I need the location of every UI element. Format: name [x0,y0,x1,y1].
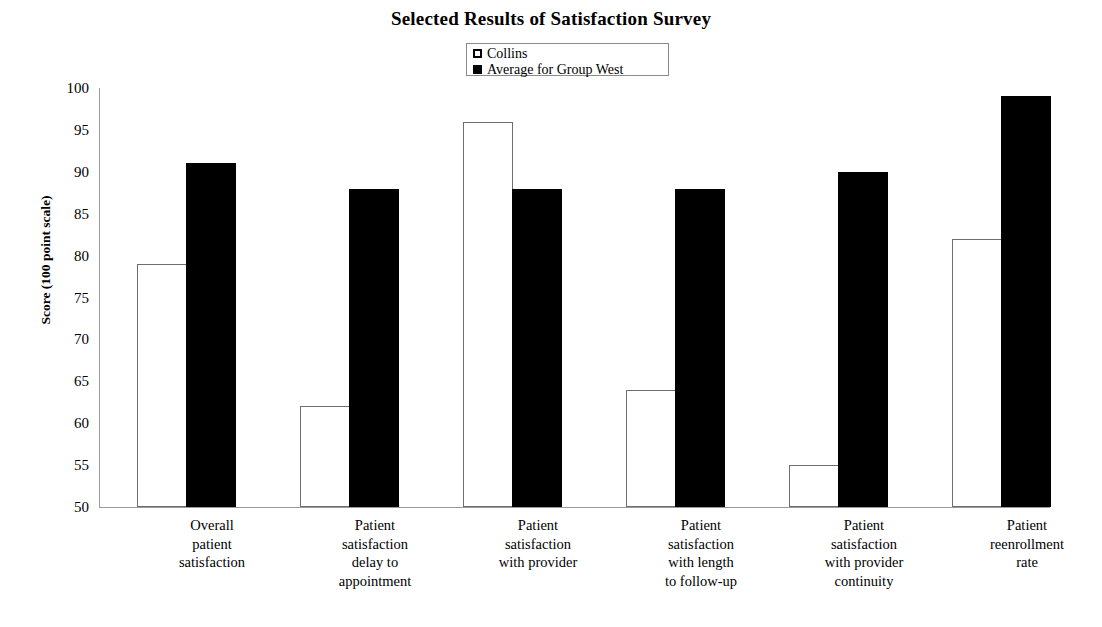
y-axis-title: Score (100 point scale) [38,160,54,360]
y-tick-label: 50 [74,499,89,516]
category-label-line: with length [616,553,786,572]
category-label-line: to follow-up [616,572,786,591]
y-tick-label: 85 [74,205,89,222]
legend-label-collins: Collins [487,46,527,61]
category-label-line: Patient [290,516,460,535]
category-label-line: satisfaction [127,553,297,572]
category-label-line: Patient [453,516,623,535]
category-label-line: Overall [127,516,297,535]
bar-group-west [1001,96,1051,507]
y-tick-label: 90 [74,163,89,180]
category-label-line: Patient [779,516,949,535]
y-axis-line [99,88,100,508]
category-label-line: Patient [942,516,1102,535]
bar-group [789,88,889,507]
category-label: Patientsatisfactionwith providercontinui… [779,516,949,590]
legend-item-collins: Collins [473,46,668,61]
category-label-line: continuity [779,572,949,591]
bar-collins [952,239,1002,507]
y-tick-label: 75 [74,289,89,306]
bar-collins [463,122,513,507]
bar-group-west [675,189,725,507]
plot-area: 10095908580757065605550 Overallpatientsa… [99,88,1050,507]
bar-group-west [349,189,399,507]
bar-group [952,88,1052,507]
y-tick-label: 70 [74,331,89,348]
category-label: Overallpatientsatisfaction [127,516,297,572]
bar-collins [300,406,350,507]
bar-collins [137,264,187,507]
category-label-line: satisfaction [779,535,949,554]
category-label-line: satisfaction [453,535,623,554]
legend-swatch-group-west-icon [473,65,482,74]
bar-group-west [186,163,236,507]
bar-collins [626,390,676,507]
category-label-line: Patient [616,516,786,535]
bar-group [626,88,726,507]
y-tick-label: 80 [74,247,89,264]
y-tick-label: 55 [74,457,89,474]
bar-group [137,88,237,507]
category-label: Patientsatisfactionwith provider [453,516,623,572]
category-label-line: rate [942,553,1102,572]
bar-collins [789,465,839,507]
category-label-line: patient [127,535,297,554]
satisfaction-survey-bar-chart: Selected Results of Satisfaction Survey … [0,0,1102,627]
category-label-line: satisfaction [290,535,460,554]
category-label: Patientsatisfactiondelay toappointment [290,516,460,590]
category-label: Patientreenrollmentrate [942,516,1102,572]
legend-item-group-west: Average for Group West [473,62,668,77]
bar-group-west [512,189,562,507]
category-label-line: with provider [779,553,949,572]
y-tick-label: 100 [67,80,90,97]
bar-group [463,88,563,507]
category-label-line: delay to [290,553,460,572]
legend-label-group-west: Average for Group West [487,62,623,77]
x-axis-line [99,507,1050,508]
category-label: Patientsatisfactionwith lengthto follow-… [616,516,786,590]
bar-group-west [838,172,888,507]
y-tick-label: 95 [74,121,89,138]
y-tick-label: 60 [74,415,89,432]
category-label-line: with provider [453,553,623,572]
y-tick-label: 65 [74,373,89,390]
chart-title: Selected Results of Satisfaction Survey [0,8,1102,30]
category-label-line: appointment [290,572,460,591]
bar-group [300,88,400,507]
legend-swatch-collins-icon [473,49,482,58]
category-label-line: satisfaction [616,535,786,554]
category-label-line: reenrollment [942,535,1102,554]
chart-legend: Collins Average for Group West [466,43,669,76]
